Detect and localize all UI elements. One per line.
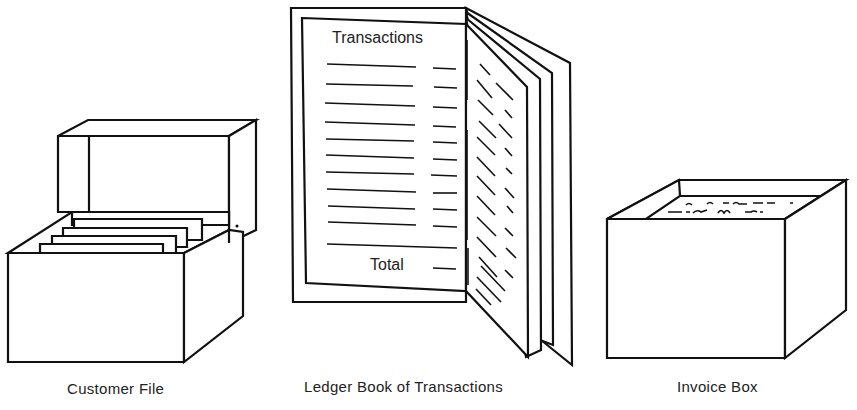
invoice-box-label: Invoice Box [677,378,758,395]
invoice-box-icon [607,180,846,358]
ledger-page-heading: Transactions [332,29,423,47]
customer-file-label: Customer File [67,380,164,397]
ledger-book-icon [291,8,572,365]
diagram-canvas [0,0,857,410]
ledger-page-total: Total [370,256,404,274]
customer-file-icon [8,120,256,362]
ledger-book-label: Ledger Book of Transactions [304,378,503,395]
